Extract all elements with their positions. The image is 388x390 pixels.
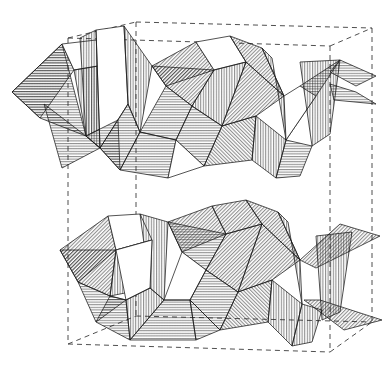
crystal-structure-canvas	[0, 0, 388, 390]
crystal-structure-figure	[0, 0, 388, 390]
